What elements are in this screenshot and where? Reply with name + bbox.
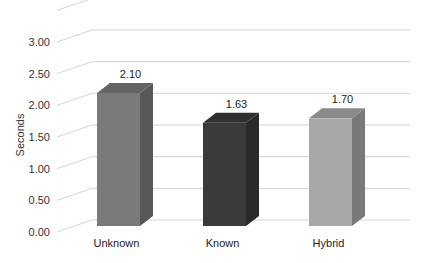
gridline: [57, 62, 410, 74]
gridline: [57, 30, 410, 42]
y-tick-label: 2.50: [29, 68, 50, 80]
gridline: [57, 0, 410, 10]
y-axis-label: Seconds: [14, 113, 26, 156]
category-label: Unknown: [94, 237, 140, 249]
category-label: Hybrid: [313, 237, 345, 249]
x-axis-categories: UnknownKnownHybrid: [94, 237, 345, 249]
y-tick-label: 0.50: [29, 194, 50, 206]
bar-unknown: 2.10: [97, 68, 153, 226]
bar-known: 1.63: [203, 98, 259, 226]
bar-hybrid: 1.70: [309, 93, 365, 226]
y-tick-label: 1.00: [29, 163, 50, 175]
y-tick-label: 2.00: [29, 99, 50, 111]
value-label: 1.70: [332, 93, 353, 105]
y-axis-ticks: 0.000.501.001.502.002.503.00: [29, 36, 50, 238]
bar-chart-3d: 0.000.501.001.502.002.503.00 Seconds 2.1…: [0, 0, 422, 263]
bars: 2.101.631.70: [97, 68, 365, 226]
y-tick-label: 1.50: [29, 131, 50, 143]
value-label: 2.10: [120, 68, 141, 80]
category-label: Known: [206, 237, 240, 249]
y-tick-label: 0.00: [29, 226, 50, 238]
y-tick-label: 3.00: [29, 36, 50, 48]
value-label: 1.63: [226, 98, 247, 110]
